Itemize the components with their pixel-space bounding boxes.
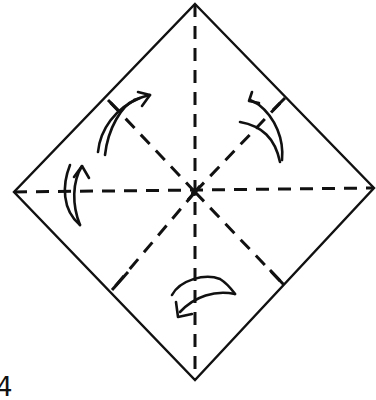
upper-right-fold-arrow bbox=[240, 92, 282, 162]
diagonal-upper-right bbox=[195, 98, 285, 192]
left-fold-arrow bbox=[65, 165, 89, 225]
upper-left-fold-arrow bbox=[98, 92, 150, 155]
crease-end-lower-right bbox=[270, 270, 284, 285]
step-label: 4 bbox=[0, 372, 13, 400]
crease-end-lower-left bbox=[112, 272, 128, 290]
bottom-fold-arrow bbox=[172, 277, 235, 317]
crease-end-upper-right bbox=[273, 98, 285, 110]
